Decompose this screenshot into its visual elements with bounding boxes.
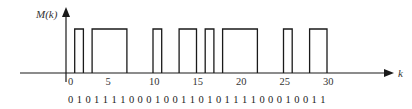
tick-label: 15 [193,76,204,87]
bit-value: 1 [286,94,291,105]
bit-value: 0 [164,94,169,105]
bit-value: 1 [233,94,238,105]
bit-value: 1 [103,94,108,105]
bit-value: 0 [138,94,143,105]
bit-value: 0 [146,94,151,105]
bit-value: 0 [216,94,221,105]
bit-value: 0 [303,94,308,105]
bit-value: 0 [199,94,204,105]
tick-label: 0 [68,76,73,87]
tick-labels: 051015202530 [68,76,334,87]
bit-value: 0 [294,94,299,105]
bit-value: 0 [172,94,177,105]
bit-value: 1 [77,94,82,105]
bit-value: 1 [181,94,186,105]
bit-value: 1 [320,94,325,105]
pulse-train [75,29,327,73]
x-axis-arrow-icon [384,69,394,77]
pulse [284,29,293,73]
tick-label: 20 [236,76,247,87]
bit-value: 1 [120,94,125,105]
m-sequence-diagram: k M(k) 051015202530 01011110001001101011… [0,0,412,109]
tick-label: 25 [280,76,291,87]
tick-label: 10 [149,76,160,87]
bit-value: 1 [155,94,160,105]
bit-value: 1 [251,94,256,105]
pulse [75,29,84,73]
pulse [205,29,214,73]
y-axis: M(k) [35,7,70,82]
bit-value: 1 [207,94,212,105]
bit-value: 1 [190,94,195,105]
bit-value: 1 [225,94,230,105]
bit-value: 0 [129,94,134,105]
x-axis: k [20,67,404,79]
pulse [153,29,162,73]
x-axis-label: k [398,67,404,79]
tick-label: 5 [106,76,111,87]
pulse [92,29,127,73]
bit-value: 0 [277,94,282,105]
bit-value: 1 [94,94,99,105]
pulse [310,29,327,73]
bit-value: 0 [68,94,73,105]
pulse [179,29,196,73]
bit-value: 0 [85,94,90,105]
y-axis-arrow-icon [62,7,70,17]
bit-value: 1 [242,94,247,105]
bit-sequence: 010111100010011010111100010011 [68,94,326,105]
y-axis-label: M(k) [35,8,58,21]
bit-value: 0 [259,94,264,105]
tick-label: 30 [323,76,334,87]
pulse [223,29,258,73]
bit-value: 0 [268,94,273,105]
bit-value: 1 [112,94,117,105]
bit-value: 1 [312,94,317,105]
